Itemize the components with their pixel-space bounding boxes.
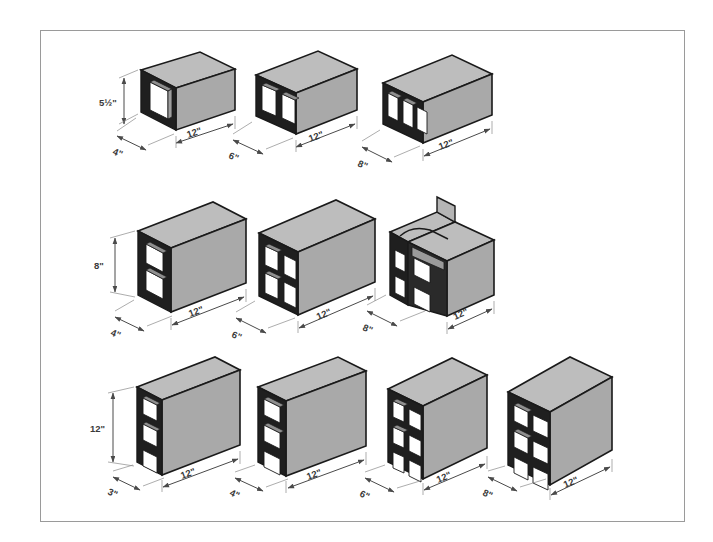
dim-r3-b1-height: 12"	[90, 387, 134, 466]
dim-label-r3b1-height: 12"	[90, 423, 105, 434]
dim-label-r1b1-width: 4"	[111, 146, 124, 160]
block-r1-b3	[383, 55, 492, 143]
dim-label-r1b3-width: 8"	[356, 158, 369, 172]
block-r2-b1	[138, 202, 246, 312]
dim-label-r1b2-length: 12"	[307, 128, 325, 143]
dim-label-r2b1-width: 4"	[109, 327, 122, 341]
block-r2-b2	[259, 200, 375, 315]
dim-label-r1b2-width: 6"	[227, 150, 240, 164]
cmu-blocks-svg: 5½" 4" 12" 6" 12"	[0, 0, 713, 542]
dim-r2-b1-height: 8"	[94, 231, 135, 297]
dim-label-r3b3-width: 6"	[358, 488, 371, 502]
block-r3-b3	[388, 358, 487, 482]
block-r2-b3	[390, 197, 494, 316]
block-r3-b4	[508, 357, 612, 490]
block-r3-b2	[258, 357, 366, 476]
block-r1-b1	[141, 52, 235, 130]
dim-label-r1b1-height: 5½"	[99, 97, 117, 108]
dim-label-r2b1-height: 8"	[94, 260, 104, 271]
dim-label-r3b4-width: 8"	[481, 487, 494, 501]
dim-label-r3b2-width: 4"	[228, 487, 241, 501]
block-r1-b2	[256, 51, 357, 134]
dim-r1-b1-height: 5½"	[99, 70, 138, 124]
block-diagram-stage: 5½" 4" 12" 6" 12"	[0, 0, 713, 542]
dim-label-r2b3-width: 8"	[361, 322, 374, 336]
dim-label-r2b2-length: 12"	[315, 306, 333, 322]
block-r3-b1	[137, 357, 240, 475]
dim-label-r3b1-width: 3"	[106, 486, 119, 500]
dim-label-r1b3-length: 12"	[437, 136, 455, 151]
dim-label-r2b1-length: 12"	[187, 303, 205, 318]
dim-label-r1b1-length: 12"	[185, 125, 203, 140]
dim-label-r2b2-width: 6"	[230, 329, 243, 343]
